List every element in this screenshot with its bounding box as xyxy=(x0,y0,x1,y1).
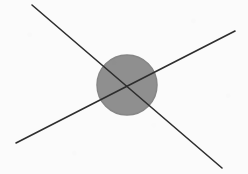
ascending-line xyxy=(16,31,235,143)
shaded-circle xyxy=(97,55,157,115)
figure-canvas: Two intersecting straight lines crossing… xyxy=(0,0,248,174)
geometric-figure-svg: Two intersecting straight lines crossing… xyxy=(0,0,248,174)
